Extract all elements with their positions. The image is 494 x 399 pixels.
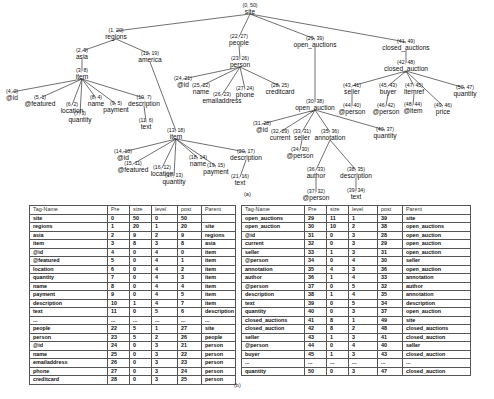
table-cell: 50	[178, 214, 202, 223]
table-cell: 0	[108, 214, 130, 223]
tree-node-feat1: (5, 1)@featured	[25, 94, 56, 107]
table-cell: 29	[378, 240, 403, 249]
table-cell: 28	[108, 376, 130, 385]
table-cell: 0	[130, 291, 152, 300]
table-cell: 4	[349, 291, 378, 300]
table-cell: regions	[202, 231, 236, 240]
table-cell: 41	[305, 316, 327, 325]
table-row: creditcard280325person	[30, 376, 236, 385]
node-label: open_auctions	[294, 41, 338, 49]
table-cell: 0	[130, 342, 152, 351]
node-label: open_auction	[295, 104, 335, 112]
table-cell: 8	[178, 240, 202, 249]
tree-node-buyer: (45, 43)buyer	[379, 82, 397, 96]
table-cell: 0	[327, 231, 349, 240]
node-label: closed_auction	[384, 65, 428, 73]
table-cell: 31	[305, 231, 327, 240]
table-cell: open_auction	[403, 308, 471, 317]
node-label: site	[245, 8, 256, 15]
table-cell: open_auction	[403, 265, 471, 274]
table-cell: annotation	[403, 274, 471, 283]
table-row: description381435annotation	[242, 291, 471, 300]
node-label: creditcard	[266, 88, 295, 95]
table-row: ..................	[242, 359, 471, 368]
table-cell: ...	[152, 316, 178, 325]
table-cell: 0	[327, 367, 349, 376]
column-header: post	[378, 206, 403, 215]
table-cell: emailaddress	[30, 359, 108, 368]
table-cell: 22	[178, 350, 202, 359]
table-cell: 5	[108, 257, 130, 266]
table-row: @id310328open_auction	[242, 231, 471, 240]
table-row: @id4040item	[30, 248, 236, 257]
table-row: payment9045item	[30, 291, 236, 300]
node-label: person	[230, 61, 250, 69]
table-cell: annotation	[242, 265, 305, 274]
table-row: item3838asia	[30, 240, 236, 249]
table-cell: open_auctions	[242, 214, 305, 223]
tree-node-seller1: (33, 31)seller	[293, 128, 311, 141]
table-row: author361433annotation	[242, 274, 471, 283]
table-cell: 1	[130, 299, 152, 308]
node-label: quantity	[373, 132, 397, 140]
table-cell: text	[242, 299, 305, 308]
table-cell: ...	[178, 316, 202, 325]
table-cell: 10	[108, 299, 130, 308]
table-cell: 36	[305, 274, 327, 283]
table-cell: 0	[178, 248, 202, 257]
table-caption: (b)	[234, 382, 241, 388]
node-label: @id	[256, 126, 268, 133]
xml-tree-diagram: (0, 50)site(1, 20)regions(2, 9)asia(3, 8…	[0, 0, 494, 210]
table-row: @featured5041item	[30, 257, 236, 266]
table-cell: name	[30, 282, 108, 291]
table-cell: closed_auction	[403, 333, 471, 342]
table-cell: 1	[327, 274, 349, 283]
table-cell: 34	[378, 299, 403, 308]
table-cell: item	[30, 240, 108, 249]
tree-node-desc1: (10, 7)description	[128, 94, 160, 108]
table-cell: 8	[108, 282, 130, 291]
node-label: current	[270, 134, 291, 141]
table-cell: people	[202, 333, 236, 342]
table-cell: 29	[305, 214, 327, 223]
table-cell: item	[202, 291, 236, 300]
table-cell: author	[242, 274, 305, 283]
table-cell: 0	[327, 257, 349, 266]
table-row: current320329open_auction	[242, 240, 471, 249]
table-cell: 40	[378, 342, 403, 351]
table-cell: 1	[152, 325, 178, 334]
tree-node-item2: (13, 18)item	[167, 127, 185, 140]
table-cell: site	[30, 214, 108, 223]
table-cell: 33	[378, 274, 403, 283]
tree-node-ii: (48, 44)@item	[403, 101, 423, 114]
node-label: regions	[105, 33, 127, 41]
node-label: seller	[294, 134, 311, 141]
table-cell: 0	[152, 214, 178, 223]
table-row: ..................	[30, 316, 236, 325]
table-cell: closed_auction	[403, 367, 471, 376]
table-cell: 4	[152, 299, 178, 308]
table-row: name250322person	[30, 350, 236, 359]
table-cell: 34	[305, 257, 327, 266]
table-cell: 5	[130, 333, 152, 342]
table-cell: 2	[349, 223, 378, 232]
tree-node-sp1: (34, 30)@person	[287, 146, 314, 160]
node-label: people	[229, 39, 249, 47]
table-cell: seller	[403, 342, 471, 351]
node-label: @person	[373, 108, 400, 116]
table-cell: person	[202, 376, 236, 385]
column-header: Parent	[403, 206, 471, 215]
table-cell: creditcard	[30, 376, 108, 385]
table-cell: 7	[108, 274, 130, 283]
table-cell: seller	[242, 248, 305, 257]
table-cell: 8	[327, 325, 349, 334]
table-cell: 3	[152, 376, 178, 385]
table-cell: site	[202, 325, 236, 334]
table-cell: 3	[152, 240, 178, 249]
node-label: description	[230, 154, 262, 162]
table-cell: 3	[349, 240, 378, 249]
column-header: post	[178, 206, 202, 215]
table-cell: 0	[327, 299, 349, 308]
table-cell: 3	[152, 342, 178, 351]
table-cell: 8	[327, 316, 349, 325]
